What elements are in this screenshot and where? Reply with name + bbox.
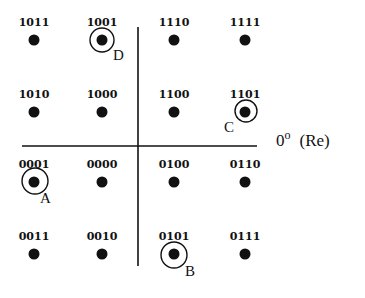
point-code-label: 1110 — [159, 16, 190, 29]
point-code-label: 1010 — [19, 88, 50, 101]
point-dot — [97, 35, 108, 46]
point-code-label: 0001 — [19, 158, 50, 171]
constellation-point: 1010 — [19, 88, 50, 118]
constellation-diagram: 1011100111101111101010001100110100010000… — [0, 0, 365, 298]
point-code-label: 1111 — [230, 16, 261, 29]
point-code-label: 0111 — [230, 230, 261, 243]
marker-c: C — [224, 100, 257, 135]
point-code-label: 1011 — [19, 16, 50, 29]
marker-letter: B — [185, 263, 195, 279]
point-code-label: 0011 — [19, 230, 50, 243]
constellation-point: 0000 — [87, 158, 118, 188]
real-axis-label: 0o(Re) — [276, 128, 330, 150]
constellation-point: 0101 — [159, 230, 190, 260]
point-code-label: 0100 — [159, 158, 190, 171]
highlighted-points: ABCD — [22, 28, 257, 279]
constellation-point: 0111 — [230, 230, 261, 260]
marker-letter: C — [224, 119, 234, 135]
constellation-point: 1011 — [19, 16, 50, 46]
point-dot — [97, 177, 108, 188]
point-dot — [169, 35, 180, 46]
point-dot — [169, 177, 180, 188]
point-code-label: 0010 — [87, 230, 118, 243]
constellation-point: 1111 — [230, 16, 261, 46]
constellation-point: 1001 — [87, 16, 118, 46]
point-dot — [169, 249, 180, 260]
degree-symbol: o — [285, 128, 291, 142]
constellation-points: 1011100111101111101010001100110100010000… — [19, 16, 261, 260]
point-dot — [240, 177, 251, 188]
point-code-label: 0101 — [159, 230, 190, 243]
point-dot — [97, 107, 108, 118]
axis-angle: 0 — [276, 131, 285, 150]
point-code-label: 1101 — [230, 88, 261, 101]
point-dot — [240, 249, 251, 260]
constellation-point: 0100 — [159, 158, 190, 188]
point-code-label: 0110 — [230, 158, 261, 171]
marker-letter: D — [113, 47, 124, 63]
point-dot — [29, 249, 40, 260]
marker-letter: A — [40, 190, 51, 206]
point-dot — [240, 107, 251, 118]
axis-name: (Re) — [300, 131, 330, 150]
point-dot — [29, 107, 40, 118]
constellation-point: 1101 — [230, 88, 261, 118]
marker-d: D — [90, 28, 124, 63]
point-dot — [169, 107, 180, 118]
constellation-point: 1110 — [159, 16, 190, 46]
point-code-label: 1001 — [87, 16, 118, 29]
point-dot — [240, 35, 251, 46]
constellation-point: 0011 — [19, 230, 50, 260]
point-dot — [29, 35, 40, 46]
constellation-point: 0110 — [230, 158, 261, 188]
point-dot — [29, 177, 40, 188]
marker-a: A — [22, 168, 51, 206]
point-dot — [97, 249, 108, 260]
constellation-point: 0010 — [87, 230, 118, 260]
point-code-label: 1100 — [159, 88, 190, 101]
point-code-label: 1000 — [87, 88, 118, 101]
point-code-label: 0000 — [87, 158, 118, 171]
marker-b: B — [161, 242, 195, 279]
constellation-point: 1000 — [87, 88, 118, 118]
constellation-point: 1100 — [159, 88, 190, 118]
